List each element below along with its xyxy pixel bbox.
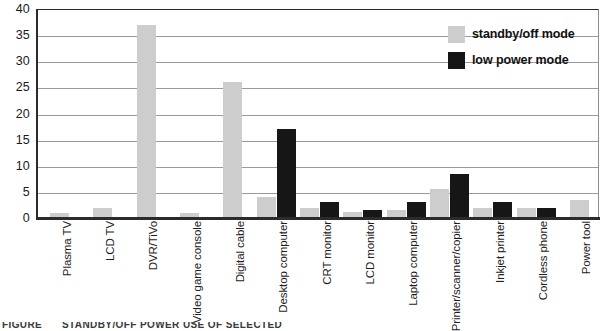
bar-standby-off-mode <box>137 25 156 218</box>
y-tick-label: 20 <box>0 108 30 120</box>
bar-group <box>298 10 341 218</box>
x-axis-category-label: CRT monitor <box>322 221 333 285</box>
legend-swatch-standby <box>448 26 465 43</box>
legend-item: low power mode <box>448 47 598 73</box>
x-axis-category-label: Inkjet printer <box>495 221 506 283</box>
bar-low-power-mode <box>320 202 339 218</box>
y-tick-label: 40 <box>0 3 30 15</box>
y-tick-label: 30 <box>0 55 30 67</box>
bar-low-power-mode <box>450 174 469 218</box>
x-axis-category-label: Power tool <box>581 221 592 274</box>
bar-group <box>384 10 427 218</box>
bar-standby-off-mode <box>570 200 589 218</box>
y-axis: 0510152025303540 <box>0 0 30 231</box>
y-tick-label: 5 <box>0 186 30 198</box>
x-axis-category-label: LCD monitor <box>365 221 376 284</box>
caption-strip: FIGURE STANDBY/OFF POWER USE OF SELECTED <box>0 322 605 331</box>
bar-group <box>168 10 211 218</box>
x-axis-category-label: LCD TV <box>105 221 116 261</box>
bar-group <box>211 10 254 218</box>
x-axis-category-label: Printer/scanner/copier <box>451 221 462 331</box>
legend-item: standby/off mode <box>448 21 598 47</box>
bar-group <box>38 10 81 218</box>
x-axis: Plasma TVLCD TVDVR/TiVoVideo game consol… <box>36 221 599 326</box>
x-axis-line <box>36 217 600 220</box>
y-tick-label: 15 <box>0 134 30 146</box>
x-axis-category-label: DVR/TiVo <box>148 221 159 270</box>
x-axis-category-label: Video game console <box>192 221 203 323</box>
y-tick-label: 35 <box>0 29 30 41</box>
legend-label: low power mode <box>472 53 569 67</box>
legend-label: standby/off mode <box>472 27 575 41</box>
x-axis-category-label: Laptop computer <box>408 221 419 306</box>
bar-low-power-mode <box>277 129 296 218</box>
bar-group <box>255 10 298 218</box>
x-axis-category-label: Plasma TV <box>62 221 73 276</box>
legend: standby/off modelow power mode <box>448 21 598 73</box>
bar-low-power-mode <box>407 202 426 218</box>
bar-standby-off-mode <box>430 189 449 218</box>
x-axis-category-label: Desktop computer <box>278 221 289 313</box>
caption-figure-label: FIGURE <box>2 322 42 330</box>
x-axis-category-label: Cordless phone <box>538 221 549 300</box>
bar-group <box>81 10 124 218</box>
caption-title: STANDBY/OFF POWER USE OF SELECTED <box>62 322 282 330</box>
y-tick-label: 10 <box>0 160 30 172</box>
x-axis-category-label: Digital cable <box>235 221 246 282</box>
legend-swatch-lowpower <box>448 52 465 69</box>
bar-standby-off-mode <box>257 197 276 218</box>
bar-group <box>125 10 168 218</box>
bar-group <box>341 10 384 218</box>
bar-chart: 0510152025303540 standby/off modelow pow… <box>0 0 605 331</box>
bar-standby-off-mode <box>223 82 242 218</box>
bar-low-power-mode <box>493 202 512 218</box>
y-tick-label: 25 <box>0 81 30 93</box>
y-tick-label: 0 <box>0 212 30 224</box>
